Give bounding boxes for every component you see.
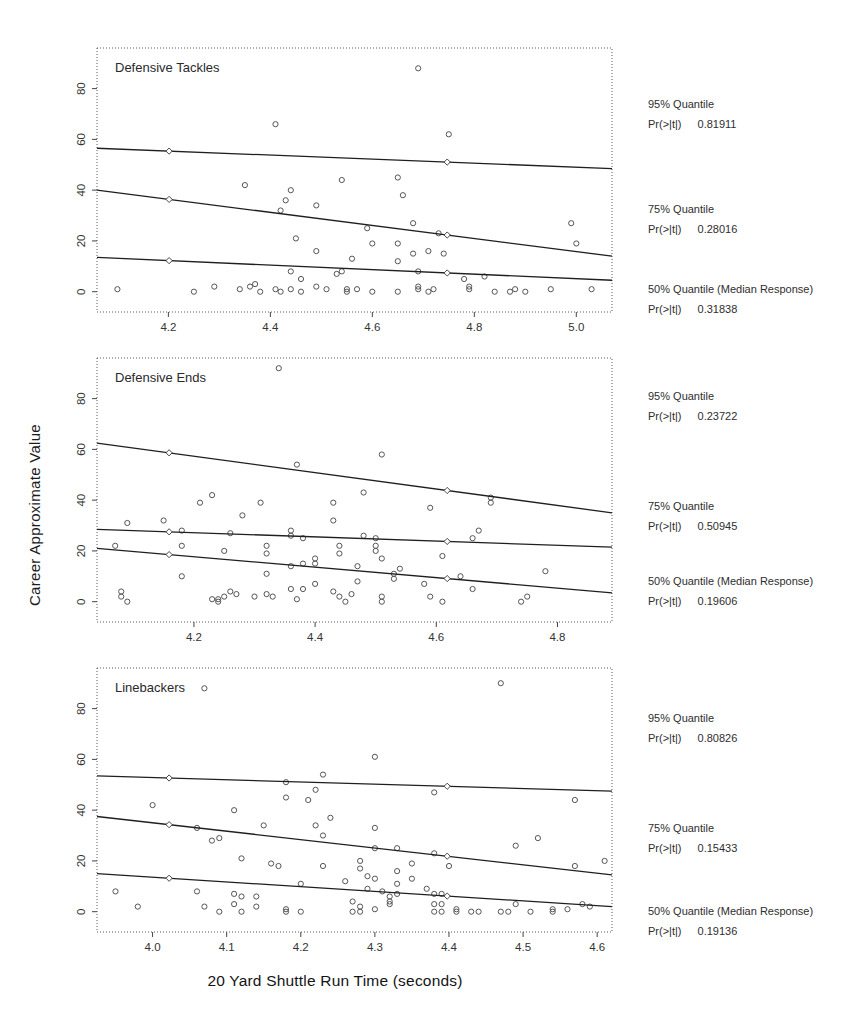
quantile-name: 95% Quantile (648, 390, 841, 403)
p-value: 0.81911 (698, 118, 737, 130)
annotation-q75: 75% QuantilePr(>|t|)0.15433 (648, 822, 841, 855)
panel-defensive-ends: 4.24.44.64.8020406080Defensive Ends95% Q… (60, 350, 841, 660)
quantile-lines (97, 443, 612, 593)
p-label: Pr(>|t|) (648, 842, 682, 854)
svg-text:4.2: 4.2 (293, 941, 309, 953)
panel-linebackers: 4.04.14.24.34.44.54.6020406080Linebacker… (60, 660, 841, 970)
svg-text:0: 0 (75, 908, 87, 914)
annotation-q95: 95% QuantilePr(>|t|)0.23722 (648, 390, 841, 423)
p-row: Pr(>|t|)0.31838 (648, 303, 841, 316)
svg-text:4.6: 4.6 (428, 631, 444, 643)
x-axis-title: 20 Yard Shuttle Run Time (seconds) (207, 972, 462, 990)
p-value: 0.19136 (698, 925, 738, 937)
p-value: 0.50945 (698, 520, 738, 532)
p-row: Pr(>|t|)0.15433 (648, 842, 841, 855)
quantile-name: 50% Quantile (Median Response) (648, 575, 841, 588)
svg-text:60: 60 (75, 133, 87, 146)
annotation-q95: 95% QuantilePr(>|t|)0.81911 (648, 98, 841, 131)
quantile-name: 75% Quantile (648, 203, 841, 216)
svg-text:20: 20 (75, 235, 87, 248)
svg-text:4.6: 4.6 (364, 321, 380, 333)
y-axis-ticks: 020406080 (75, 82, 97, 295)
annotation-q75: 75% QuantilePr(>|t|)0.50945 (648, 500, 841, 533)
plot-box (97, 48, 612, 312)
scatter-points (115, 66, 594, 295)
p-row: Pr(>|t|)0.19606 (648, 595, 841, 608)
plot-box (97, 358, 612, 622)
p-row: Pr(>|t|)0.50945 (648, 520, 841, 533)
quantile-name: 75% Quantile (648, 500, 841, 513)
p-label: Pr(>|t|) (648, 223, 682, 235)
x-axis-ticks: 4.24.44.64.8 (186, 622, 566, 643)
p-value: 0.80826 (698, 732, 738, 744)
p-value: 0.19606 (698, 595, 738, 607)
annotation-q50: 50% Quantile (Median Response)Pr(>|t|)0.… (648, 905, 841, 938)
p-row: Pr(>|t|)0.80826 (648, 732, 841, 745)
quantile-name: 75% Quantile (648, 822, 841, 835)
p-label: Pr(>|t|) (648, 732, 682, 744)
x-axis-ticks: 4.04.14.24.34.44.54.6 (145, 932, 606, 953)
quantile-name: 95% Quantile (648, 98, 841, 111)
svg-text:80: 80 (75, 82, 87, 95)
svg-text:4.2: 4.2 (186, 631, 202, 643)
svg-text:4.6: 4.6 (589, 941, 605, 953)
p-row: Pr(>|t|)0.81911 (648, 118, 841, 131)
x-axis-ticks: 4.24.44.64.85.0 (160, 312, 584, 333)
p-label: Pr(>|t|) (648, 520, 682, 532)
annotation-q95: 95% QuantilePr(>|t|)0.80826 (648, 712, 841, 745)
plot-box (97, 668, 612, 932)
p-label: Pr(>|t|) (648, 595, 682, 607)
svg-text:40: 40 (75, 804, 87, 817)
annotation-q50: 50% Quantile (Median Response)Pr(>|t|)0.… (648, 575, 841, 608)
p-value: 0.15433 (698, 842, 738, 854)
p-label: Pr(>|t|) (648, 925, 682, 937)
quantile-name: 50% Quantile (Median Response) (648, 905, 841, 918)
svg-text:4.5: 4.5 (515, 941, 531, 953)
svg-text:0: 0 (75, 598, 87, 604)
panels-container: 4.24.44.64.85.0020406080Defensive Tackle… (60, 40, 841, 970)
annotation-q75: 75% QuantilePr(>|t|)0.28016 (648, 203, 841, 236)
panel-title: Linebackers (115, 680, 186, 695)
p-label: Pr(>|t|) (648, 303, 682, 315)
svg-text:20: 20 (75, 855, 87, 868)
plot-area: 4.04.14.24.34.44.54.6020406080Linebacker… (60, 660, 630, 960)
svg-text:4.8: 4.8 (466, 321, 482, 333)
plot-area: 4.24.44.64.85.0020406080Defensive Tackle… (60, 40, 630, 340)
svg-text:4.1: 4.1 (219, 941, 235, 953)
svg-text:4.3: 4.3 (367, 941, 383, 953)
plot-area: 4.24.44.64.8020406080Defensive Ends (60, 350, 630, 650)
quantile-lines (97, 775, 612, 907)
svg-text:40: 40 (75, 494, 87, 507)
svg-text:60: 60 (75, 443, 87, 456)
svg-text:5.0: 5.0 (568, 321, 584, 333)
svg-text:20: 20 (75, 545, 87, 558)
y-axis-ticks: 020406080 (75, 702, 97, 915)
y-axis-ticks: 020406080 (75, 392, 97, 605)
quantile-name: 50% Quantile (Median Response) (648, 283, 841, 296)
quantile-name: 95% Quantile (648, 712, 841, 725)
panel-title: Defensive Ends (115, 370, 207, 385)
annotation-q50: 50% Quantile (Median Response)Pr(>|t|)0.… (648, 283, 841, 316)
p-value: 0.31838 (698, 303, 738, 315)
svg-text:80: 80 (75, 702, 87, 715)
svg-text:40: 40 (75, 184, 87, 197)
p-label: Pr(>|t|) (648, 410, 682, 422)
svg-text:4.0: 4.0 (145, 941, 161, 953)
p-value: 0.23722 (698, 410, 738, 422)
p-label: Pr(>|t|) (648, 118, 682, 130)
quantile-regression-figure: Career Approximate Value 4.24.44.64.85.0… (0, 0, 841, 1031)
svg-text:80: 80 (75, 392, 87, 405)
svg-text:4.4: 4.4 (307, 631, 324, 643)
svg-text:4.8: 4.8 (549, 631, 565, 643)
svg-text:0: 0 (75, 288, 87, 294)
svg-text:4.4: 4.4 (262, 321, 279, 333)
panel-defensive-tackles: 4.24.44.64.85.0020406080Defensive Tackle… (60, 40, 841, 350)
panel-title: Defensive Tackles (115, 60, 220, 75)
svg-text:4.4: 4.4 (441, 941, 458, 953)
svg-text:60: 60 (75, 753, 87, 766)
p-row: Pr(>|t|)0.28016 (648, 223, 841, 236)
y-axis-title: Career Approximate Value (26, 424, 43, 606)
p-row: Pr(>|t|)0.23722 (648, 410, 841, 423)
p-row: Pr(>|t|)0.19136 (648, 925, 841, 938)
p-value: 0.28016 (698, 223, 738, 235)
